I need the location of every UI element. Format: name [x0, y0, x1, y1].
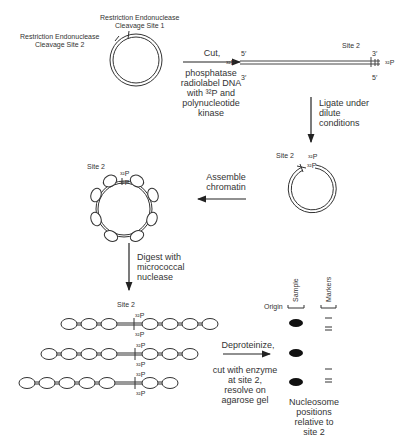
p32-circle-bottom: ³²P [307, 162, 316, 170]
lane-label-sample: Sample [292, 278, 299, 302]
deproteinize-line: cut with enzyme [205, 365, 285, 375]
lane-label-markers: Markers [325, 277, 332, 302]
fragment-3 [19, 377, 178, 389]
deproteinize-line: at site 2, [205, 375, 285, 385]
site2-chromatin: Site 2 [87, 163, 105, 171]
deproteinize-title: Deproteinize, [215, 340, 281, 350]
three-prime-right: 3′ [372, 50, 377, 58]
site2-fragments: Site 2 [117, 301, 135, 309]
cut-line: polynucleotide [168, 98, 254, 108]
site2-circle: Site 2 [276, 152, 294, 160]
ligate-line: Ligate under [319, 98, 369, 108]
five-prime-right: 5′ [372, 74, 377, 82]
digest-line: micrococcal [137, 262, 185, 272]
gel-caption-line: Nucleosome [280, 397, 348, 407]
cut-line: kinase [168, 108, 254, 118]
p32-right: ³²P [385, 59, 394, 67]
p32-frag2-bottom: ³²P [136, 361, 145, 369]
gel-caption-line: positions [280, 407, 348, 417]
digest-line: nuclease [137, 272, 185, 282]
p32-frag1-top: ³²P [135, 312, 144, 320]
p32-frag3-top: ³²P [136, 371, 145, 379]
five-prime-left: 5′ [241, 50, 246, 58]
assemble-line: chromatin [200, 182, 252, 192]
gel-caption-line: site 2 [280, 427, 348, 437]
deproteinize-line: agarose gel [205, 395, 285, 405]
p32-frag2-top: ³²P [136, 342, 145, 350]
markers-well [321, 305, 336, 308]
sample-band-3 [289, 378, 303, 386]
fragment-2 [41, 348, 198, 360]
three-prime-left: 3′ [241, 74, 246, 82]
site2-line1: Restriction Endonuclease [20, 33, 99, 41]
p32-frag1-bottom: ³²P [135, 331, 144, 339]
gel-caption-line: relative to [280, 417, 348, 427]
p32-left: ³²P [226, 59, 235, 67]
site1-line2: Cleavage Site 1 [100, 22, 179, 30]
sample-band-1 [289, 319, 303, 327]
gel-caption: Nucleosome positions relative to site 2 [280, 397, 348, 437]
p32-chromatin-bottom: ³²P [120, 179, 129, 187]
p32-frag3-bottom: ³²P [136, 390, 145, 398]
digest-line: Digest with [137, 252, 185, 262]
site1-label: Restriction Endonuclease Cleavage Site 1 [100, 14, 179, 30]
gel-origin-label: Origin [264, 303, 283, 311]
site2-line2: Cleavage Site 2 [20, 41, 99, 49]
p32-circle-top: ³²P [308, 153, 317, 161]
site1-line1: Restriction Endonuclease [100, 14, 179, 22]
circular-dna-plasmid [110, 31, 162, 86]
p32-chromatin-top: ³²P [120, 170, 129, 178]
sample-well [288, 305, 304, 308]
gel [288, 305, 336, 386]
chromatin-fragments [19, 318, 218, 389]
sample-band-2 [289, 349, 303, 357]
ligated-circle [288, 164, 336, 213]
site2-label: Restriction Endonuclease Cleavage Site 2 [20, 33, 99, 49]
ligate-description: Ligate under dilute conditions [319, 98, 369, 128]
ligate-line: dilute [319, 108, 369, 118]
deproteinize-description: cut with enzyme at site 2, resolve on ag… [205, 365, 285, 405]
assemble-line: Assemble [200, 172, 252, 182]
site2-linear: Site 2 [342, 42, 360, 50]
digest-description: Digest with micrococcal nuclease [137, 252, 185, 282]
assemble-description: Assemble chromatin [200, 172, 252, 192]
ligate-line: conditions [319, 118, 369, 128]
linear-dna [240, 57, 380, 67]
cut-line: with ³²P and [168, 88, 254, 98]
deproteinize-line: resolve on [205, 385, 285, 395]
cut-title: Cut, [190, 48, 234, 58]
